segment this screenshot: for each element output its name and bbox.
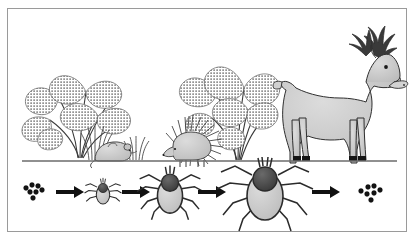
deer-host (273, 26, 408, 163)
arrow-larva-to-nymph (122, 186, 150, 198)
arrow-nymph-to-adult (198, 186, 226, 198)
tick-eggs (359, 184, 383, 203)
arrow-eggs-to-larva (56, 186, 84, 198)
deer-hooves (293, 156, 366, 161)
scene-illustration (0, 0, 415, 241)
arrow-adult-to-eggs (312, 186, 340, 198)
habitat-band (22, 26, 408, 168)
mouse-host (91, 142, 137, 168)
tick-eggs (24, 183, 45, 201)
tick-lifecycle-figure (0, 0, 415, 241)
tick-adult (217, 157, 313, 231)
tick-life-cycle-row (24, 157, 383, 231)
tick-larva (85, 178, 122, 204)
fern-fronds (22, 76, 131, 150)
